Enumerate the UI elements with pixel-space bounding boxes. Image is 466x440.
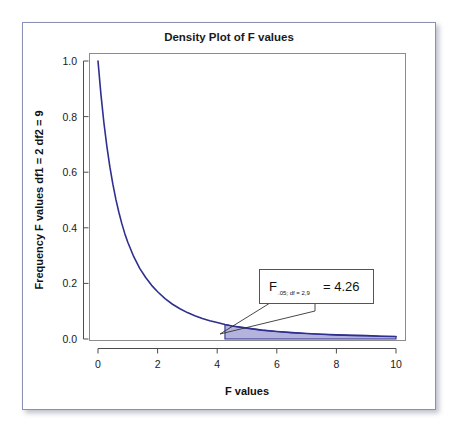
x-tick-label-2: 2 [155, 358, 161, 370]
y-tick-label-0.2: 0.2 [62, 277, 77, 289]
x-axis-title: F values [225, 385, 269, 397]
y-axis-title: Frequency F values df1 = 2 df2 = 9 [33, 110, 45, 289]
critical-value-annotation: F .05; df = 2,9 = 4.26 [260, 270, 374, 304]
x-tick-label-0: 0 [95, 358, 101, 370]
density-plot-chart: Density Plot of F values 1.0 0.8 0.6 0.4… [23, 23, 435, 409]
x-tick-label-4: 4 [214, 358, 220, 370]
x-tick-label-8: 8 [333, 358, 339, 370]
x-tick-label-6: 6 [274, 358, 280, 370]
y-tick-label-1.0: 1.0 [62, 55, 77, 67]
y-tick-label-0.0: 0.0 [62, 333, 77, 345]
y-tick-label-0.4: 0.4 [62, 222, 77, 234]
figure-card: Density Plot of F values 1.0 0.8 0.6 0.4… [22, 22, 436, 410]
annotation-symbol: F [269, 279, 277, 294]
x-tick-label-10: 10 [390, 358, 402, 370]
chart-title: Density Plot of F values [164, 31, 294, 43]
annotation-subscript: .05; df = 2,9 [278, 290, 311, 296]
y-tick-label-0.8: 0.8 [62, 111, 77, 123]
y-tick-label-0.6: 0.6 [62, 166, 77, 178]
annotation-value: = 4.26 [323, 279, 360, 294]
y-axis: 1.0 0.8 0.6 0.4 0.2 0.0 Frequency F valu… [33, 55, 89, 345]
x-axis: 0 2 4 6 8 10 F values [95, 349, 402, 398]
